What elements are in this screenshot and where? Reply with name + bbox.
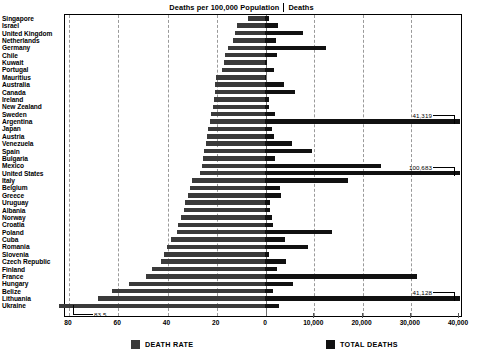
bar-death-rate — [164, 252, 265, 257]
bar-death-rate — [59, 304, 265, 309]
bar-death-rate — [129, 282, 265, 287]
bar-death-rate — [237, 23, 265, 28]
bar-death-rate — [222, 68, 265, 73]
bar-total-deaths — [265, 200, 270, 205]
category-label: Germany — [0, 44, 60, 51]
bar-total-deaths — [265, 53, 277, 58]
category-label: Poland — [0, 229, 60, 236]
category-label: Norway — [0, 214, 60, 221]
bar-death-rate — [161, 259, 265, 264]
bar-death-rate — [167, 245, 265, 250]
bar-total-deaths — [265, 31, 303, 36]
category-label: Hungary — [0, 280, 60, 287]
tick-label-deaths: 20,000 — [351, 319, 371, 326]
category-label: Australia — [0, 81, 60, 88]
bar-total-deaths — [265, 178, 348, 183]
bars-layer: 41,319100,68341,12883.5 — [64, 14, 462, 317]
tick-label-deaths: 30,000 — [400, 319, 420, 326]
bar-total-deaths — [265, 164, 381, 169]
category-label: Kuwait — [0, 59, 60, 66]
bar-total-deaths — [265, 23, 278, 28]
chart-title-right: Deaths — [288, 3, 313, 12]
bar-total-deaths — [265, 90, 295, 95]
bar-death-rate — [214, 97, 265, 102]
bar-death-rate — [225, 53, 265, 58]
bar-total-deaths — [265, 97, 269, 102]
bar-death-rate — [181, 215, 265, 220]
category-label: Croatia — [0, 221, 60, 228]
value-callout: 41,319 — [384, 112, 432, 119]
bar-total-deaths — [265, 304, 279, 309]
bar-total-deaths — [265, 171, 460, 176]
category-label: Israel — [0, 22, 60, 29]
bar-death-rate — [235, 31, 265, 36]
legend-item-total-deaths[interactable]: TOTAL DEATHS — [326, 340, 398, 349]
tick-label-deaths: 40,000 — [448, 319, 468, 326]
legend-item-death-rate[interactable]: DEATH RATE — [131, 340, 193, 349]
bar-total-deaths — [265, 16, 269, 21]
bar-death-rate — [206, 141, 265, 146]
bar-total-deaths — [265, 259, 286, 264]
category-label: Canada — [0, 89, 60, 96]
category-label: Venezuela — [0, 140, 60, 147]
tick-mark — [313, 313, 314, 318]
category-label: United States — [0, 170, 60, 177]
legend-label: TOTAL DEATHS — [340, 340, 398, 349]
bar-death-rate — [215, 90, 265, 95]
value-callout: 100,683 — [384, 164, 432, 171]
bar-death-rate — [228, 46, 265, 51]
bar-death-rate — [200, 171, 265, 176]
bar-death-rate — [146, 274, 265, 279]
axis-tick-labels: 80604020010,00020,00030,00040,000 — [0, 319, 480, 333]
bar-death-rate — [248, 16, 265, 21]
category-label: Sweden — [0, 111, 60, 118]
category-label: Chile — [0, 52, 60, 59]
category-label: Ireland — [0, 96, 60, 103]
category-label: Slovenia — [0, 251, 60, 258]
bar-total-deaths — [265, 38, 276, 43]
bar-total-deaths — [265, 46, 326, 51]
callout-leader-line — [433, 115, 455, 116]
category-label: Portugal — [0, 66, 60, 73]
category-label: Czech Republic — [0, 258, 60, 265]
category-label: Cuba — [0, 236, 60, 243]
bar-death-rate — [177, 230, 265, 235]
callout-leader-line — [454, 115, 455, 124]
category-label: Japan — [0, 125, 60, 132]
bar-death-rate — [188, 193, 265, 198]
bar-death-rate — [207, 134, 265, 139]
value-callout: 83.5 — [94, 311, 106, 318]
chart-title: Deaths per 100,000 Population Deaths — [115, 1, 368, 13]
callout-leader-line — [433, 167, 455, 168]
bar-total-deaths — [265, 252, 269, 257]
category-label: Belize — [0, 288, 60, 295]
category-label: Mexico — [0, 162, 60, 169]
bar-total-deaths — [265, 141, 292, 146]
bar-total-deaths — [265, 156, 275, 161]
bar-death-rate — [171, 237, 265, 242]
tick-label-rate: 80 — [64, 319, 71, 326]
bar-death-rate — [216, 75, 265, 80]
bar-total-deaths — [265, 274, 417, 279]
bar-death-rate — [202, 164, 265, 169]
bar-total-deaths — [265, 82, 284, 87]
callout-leader-line — [454, 167, 455, 176]
category-label: Ukraine — [0, 302, 60, 309]
bar-total-deaths — [265, 127, 272, 132]
chart-title-left: Deaths per 100,000 Population — [169, 3, 279, 12]
chart-container: Deaths per 100,000 Population Deaths Sin… — [0, 0, 480, 359]
bar-total-deaths — [265, 60, 267, 65]
category-label: Lithuania — [0, 295, 60, 302]
bar-total-deaths — [265, 289, 273, 294]
bar-total-deaths — [265, 208, 270, 213]
tick-label-rate: 60 — [114, 319, 121, 326]
title-separator — [283, 3, 284, 12]
tick-mark — [458, 313, 459, 318]
bar-total-deaths — [265, 237, 285, 242]
bar-total-deaths — [265, 186, 280, 191]
category-label: Belgium — [0, 184, 60, 191]
bar-total-deaths — [265, 215, 272, 220]
tick-label-zero: 0 — [263, 319, 267, 326]
tick-label-rate: 40 — [163, 319, 170, 326]
legend-swatch-death-rate — [131, 340, 140, 349]
